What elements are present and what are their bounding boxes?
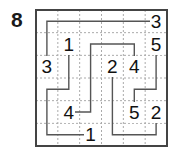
clue-value: 4 <box>128 56 141 77</box>
puzzle-board[interactable]: 3153244521 <box>0 0 176 150</box>
clue-cell: 4 <box>58 101 80 124</box>
clue-value: 3 <box>41 56 54 77</box>
clue-value: 2 <box>106 56 119 77</box>
clue-value: 3 <box>150 11 163 32</box>
clue-cell: 4 <box>123 55 145 78</box>
clue-cell: 2 <box>101 55 123 78</box>
clue-cell: 2 <box>145 101 167 124</box>
clue-value: 2 <box>150 102 163 123</box>
clue-cell: 1 <box>80 123 102 146</box>
clue-value: 5 <box>150 34 163 55</box>
clue-value: 1 <box>62 34 75 55</box>
clue-cell: 1 <box>58 33 80 56</box>
clue-value: 1 <box>84 124 97 145</box>
clue-value: 5 <box>128 102 141 123</box>
clue-cell: 5 <box>145 33 167 56</box>
clue-cell: 3 <box>145 10 167 33</box>
clue-cell: 3 <box>36 55 58 78</box>
clue-cell: 5 <box>123 101 145 124</box>
clue-value: 4 <box>62 102 75 123</box>
